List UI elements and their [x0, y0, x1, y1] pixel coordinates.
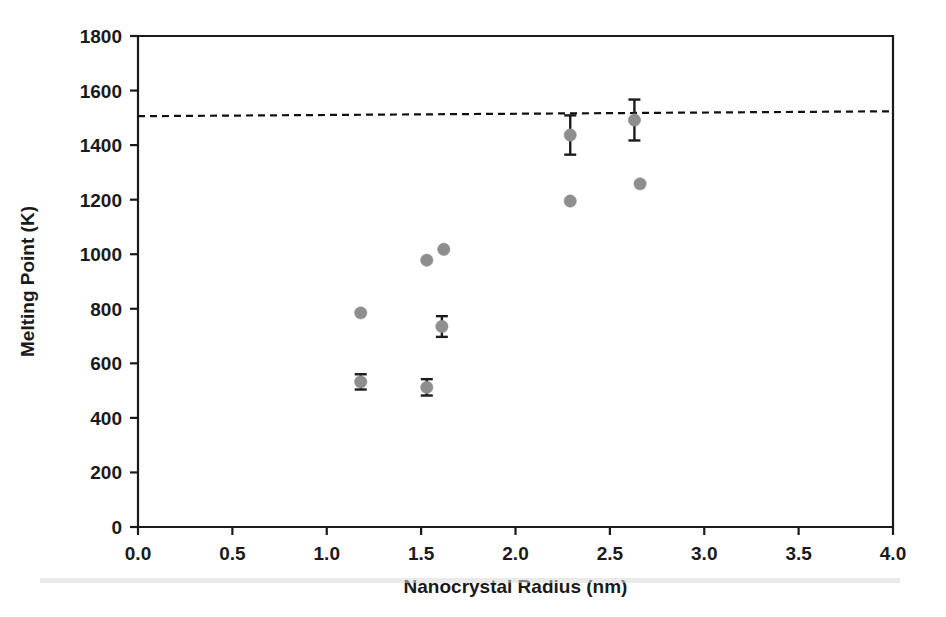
y-axis-ticks: 020040060080010001200140016001800: [80, 26, 138, 538]
y-tick-label: 800: [90, 299, 122, 320]
x-tick-label: 0.0: [125, 543, 151, 564]
axis-frame: [138, 36, 893, 527]
data-point-marker: [355, 376, 367, 388]
y-tick-label: 1200: [80, 190, 122, 211]
data-series-points: [355, 100, 647, 396]
data-point-marker: [421, 381, 433, 393]
reference-line-group: [138, 111, 893, 116]
data-point-marker: [421, 254, 433, 266]
plot-frame-path: [138, 36, 893, 527]
y-tick-label: 1400: [80, 135, 122, 156]
x-axis-ticks: 0.00.51.01.52.02.53.03.54.0: [125, 527, 906, 564]
data-point-marker: [436, 320, 448, 332]
x-tick-label: 2.5: [597, 543, 624, 564]
scan-artifact-band: [40, 578, 900, 583]
y-tick-label: 1600: [80, 81, 122, 102]
data-point-marker: [564, 195, 576, 207]
x-tick-label: 1.0: [314, 543, 340, 564]
y-tick-label: 200: [90, 462, 122, 483]
chart-figure: 020040060080010001200140016001800 0.00.5…: [0, 0, 946, 617]
y-tick-label: 1000: [80, 244, 122, 265]
bulk-melting-point-reference-line: [138, 111, 893, 116]
x-tick-label: 3.5: [785, 543, 812, 564]
x-tick-label: 4.0: [880, 543, 906, 564]
data-point-marker: [628, 114, 640, 126]
x-tick-label: 3.0: [691, 543, 717, 564]
data-point-marker: [564, 129, 576, 141]
scatter-plot-svg: 020040060080010001200140016001800 0.00.5…: [0, 0, 946, 617]
data-point-marker: [355, 307, 367, 319]
x-tick-label: 2.0: [502, 543, 528, 564]
y-axis-title: Melting Point (K): [17, 206, 38, 357]
y-tick-label: 1800: [80, 26, 122, 47]
data-point-marker: [438, 243, 450, 255]
x-tick-label: 1.5: [408, 543, 435, 564]
data-point-marker: [634, 178, 646, 190]
x-tick-label: 0.5: [219, 543, 246, 564]
y-tick-label: 600: [90, 353, 122, 374]
y-tick-label: 0: [111, 517, 122, 538]
y-tick-label: 400: [90, 408, 122, 429]
